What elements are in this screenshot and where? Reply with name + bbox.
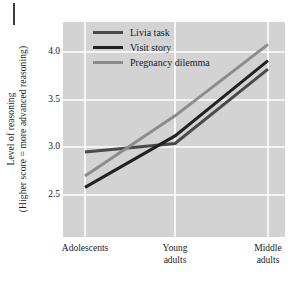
y-axis-title-line-2: (Higher score = more advanced reasoning) — [18, 24, 30, 234]
x-tick-label-adolescents: Adolescents — [45, 243, 125, 255]
series-line-visit-story — [85, 61, 268, 188]
y-axis-title-line-1: Level of reasoning — [6, 24, 18, 234]
legend-label-visit-story: Visit story — [130, 42, 171, 54]
x-tick-label-middle-adults-line-1: Middle — [228, 243, 301, 255]
y-tick-label-3-0: 3.0 — [38, 141, 60, 151]
y-tick-label-4-0: 4.0 — [38, 46, 60, 56]
legend-swatch-visit-story — [93, 46, 123, 49]
x-tick-label-young-adults-line-2: adults — [135, 255, 215, 267]
x-tick-label-adolescents-line-1: Adolescents — [45, 243, 125, 255]
legend-item-visit-story: Visit story — [93, 40, 218, 55]
x-tick-label-young-adults: Young adults — [135, 243, 215, 266]
legend-swatch-livia-task — [93, 31, 123, 34]
legend-item-livia-task: Livia task — [93, 25, 218, 40]
x-tick-label-middle-adults-line-2: adults — [228, 255, 301, 267]
figure-container: Level of reasoning (Higher score = more … — [0, 0, 301, 289]
y-tick-label-3-5: 3.5 — [38, 94, 60, 104]
legend-label-livia-task: Livia task — [130, 27, 170, 39]
x-axis-tick-labels: Adolescents Young adults Middle adults — [0, 243, 301, 283]
x-tick-label-young-adults-line-1: Young — [135, 243, 215, 255]
legend-swatch-pregnancy-dilemma — [93, 61, 123, 64]
legend-item-pregnancy-dilemma: Pregnancy dilemma — [93, 55, 218, 70]
chart-legend: Livia task Visit story Pregnancy dilemma — [93, 25, 218, 70]
legend-label-pregnancy-dilemma: Pregnancy dilemma — [130, 57, 210, 69]
y-tick-label-2-5: 2.5 — [38, 189, 60, 199]
x-tick-label-middle-adults: Middle adults — [228, 243, 301, 266]
